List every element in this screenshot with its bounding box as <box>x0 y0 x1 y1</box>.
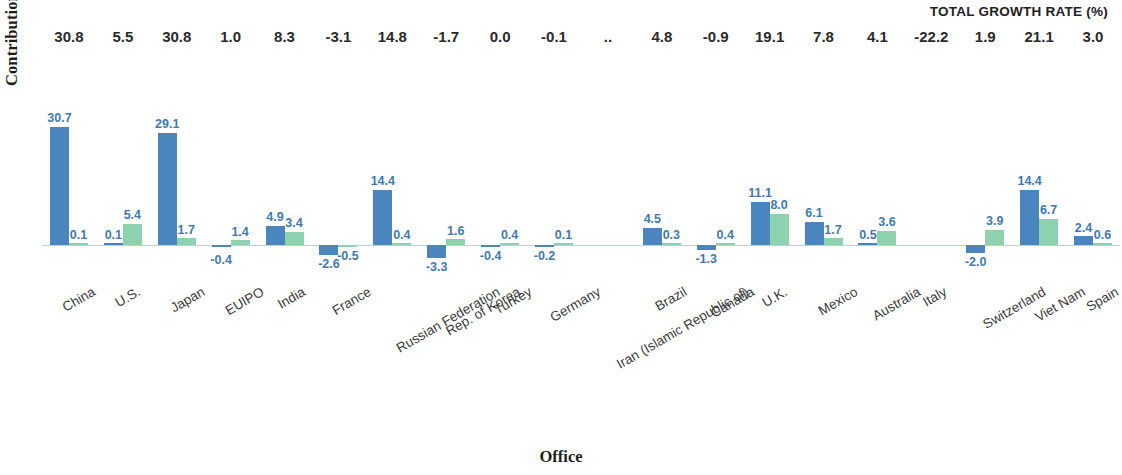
y-axis-title: Contribution to growth <box>2 0 28 86</box>
plot-area: 30.70.10.15.429.11.71.4-0.44.93.4-2.6-0.… <box>42 95 1120 275</box>
bar-group: 14.46.7 <box>1012 95 1066 275</box>
bar-group: 0.53.6 <box>851 95 905 275</box>
bar-group: -0.40.4 <box>473 95 527 275</box>
bar-resident <box>212 245 231 247</box>
bar-resident <box>966 245 985 253</box>
bar-value-label: 1.6 <box>439 224 472 238</box>
bar-group <box>904 95 958 275</box>
bar-value-label: 1.7 <box>170 223 203 237</box>
bar-value-label: 4.5 <box>637 212 668 226</box>
bar-value-label: -0.4 <box>474 249 507 263</box>
bar-group: 2.40.6 <box>1066 95 1120 275</box>
bar-group: 1.4-0.4 <box>204 95 258 275</box>
bar-value-label: 0.4 <box>709 228 742 242</box>
bar-nonresident <box>285 232 304 245</box>
bar-value-label: 5.4 <box>117 208 148 222</box>
bar-nonresident <box>1039 219 1058 245</box>
category-label: U.K. <box>759 284 789 310</box>
bar-nonresident <box>1093 243 1112 245</box>
bar-value-label: -3.3 <box>420 260 453 274</box>
total-growth-rate-value: 3.0 <box>1053 28 1122 45</box>
bar-nonresident <box>662 243 681 245</box>
bar-value-label: 30.7 <box>44 111 75 125</box>
bar-group: -3.31.6 <box>419 95 473 275</box>
bar-value-label: 1.7 <box>817 223 850 237</box>
bar-group: -0.20.1 <box>527 95 581 275</box>
bar-group: 11.18.0 <box>743 95 797 275</box>
bar-value-label: 14.4 <box>1014 174 1045 188</box>
category-label: Japan <box>168 284 207 315</box>
bar-nonresident <box>500 243 519 245</box>
bar-nonresident <box>123 224 142 245</box>
bar-nonresident <box>770 214 789 245</box>
bar-nonresident <box>231 240 250 245</box>
category-label: Australia <box>870 284 923 323</box>
bar-value-label: 0.3 <box>655 228 688 242</box>
category-axis-labels: ChinaU.S.JapanEUIPOIndiaFranceRussian Fe… <box>42 280 1120 430</box>
bar-nonresident <box>69 243 88 245</box>
bar-value-label: -1.3 <box>690 252 723 266</box>
bar-value-label: 8.0 <box>764 198 795 212</box>
category-label: Russian Federation <box>394 284 503 356</box>
bar-value-label: 6.7 <box>1033 203 1064 217</box>
bar-nonresident <box>177 238 196 245</box>
bar-nonresident <box>716 243 735 245</box>
bar-nonresident <box>338 245 357 247</box>
bar-value-label: -2.0 <box>959 255 992 269</box>
bar-value-label: -0.2 <box>528 249 561 263</box>
bar-resident <box>1020 190 1039 245</box>
bar-value-label: -0.5 <box>331 249 364 263</box>
bar-group: -2.6-0.5 <box>312 95 366 275</box>
bar-value-label: 0.4 <box>493 228 526 242</box>
bar-nonresident <box>824 238 843 245</box>
bar-value-label: 0.4 <box>385 228 418 242</box>
category-label: Spain <box>1084 284 1121 314</box>
category-label: Germany <box>547 284 603 325</box>
bar-nonresident <box>446 239 465 245</box>
bar-group: 30.70.1 <box>42 95 96 275</box>
bar-group: 29.11.7 <box>150 95 204 275</box>
bar-value-label: 29.1 <box>152 117 183 131</box>
category-label: Italy <box>921 284 950 309</box>
bar-value-label: 0.6 <box>1086 228 1119 242</box>
total-growth-rate-caption: TOTAL GROWTH RATE (%) <box>930 4 1108 19</box>
bar-nonresident <box>877 231 896 245</box>
bar-value-label-negative: -0.4 <box>205 253 238 267</box>
category-label: EUIPO <box>222 284 266 318</box>
bar-nonresident <box>985 230 1004 245</box>
total-growth-rate-row: 30.85.530.81.08.3-3.114.8-1.70.0-0.1..4.… <box>42 28 1120 50</box>
bar-value-label: 0.1 <box>62 228 95 242</box>
bar-value-label: 3.9 <box>979 214 1010 228</box>
category-label: Brazil <box>652 284 689 314</box>
bar-group: 14.40.4 <box>365 95 419 275</box>
bar-value-label: 3.6 <box>871 215 902 229</box>
bar-group: 4.93.4 <box>258 95 312 275</box>
bar-resident <box>697 245 716 250</box>
bar-resident <box>104 243 123 245</box>
chart-figure: Contribution to growth Office TOTAL GROW… <box>0 0 1122 475</box>
category-label: China <box>60 284 98 315</box>
bar-nonresident <box>392 243 411 245</box>
bar-resident <box>481 245 500 247</box>
bar-value-label: 0.1 <box>547 228 580 242</box>
bar-nonresident <box>554 243 573 245</box>
bar-value-label: 6.1 <box>799 206 830 220</box>
bar-group: 6.11.7 <box>797 95 851 275</box>
bar-group: 0.15.4 <box>96 95 150 275</box>
category-label: Mexico <box>815 284 860 318</box>
bar-resident <box>427 245 446 258</box>
bar-resident <box>858 243 877 245</box>
bar-value-label: 14.4 <box>367 174 398 188</box>
x-axis-title: Office <box>0 447 1122 467</box>
bar-group <box>581 95 635 275</box>
category-label: U.S. <box>112 284 142 310</box>
category-label: India <box>274 284 307 312</box>
bar-resident <box>535 245 554 247</box>
bar-group: -1.30.4 <box>689 95 743 275</box>
category-label: France <box>330 284 374 318</box>
bar-group: -2.03.9 <box>958 95 1012 275</box>
bar-value-label: 3.4 <box>279 216 310 230</box>
bar-group: 4.50.3 <box>635 95 689 275</box>
bar-value-label: 1.4 <box>224 225 257 239</box>
